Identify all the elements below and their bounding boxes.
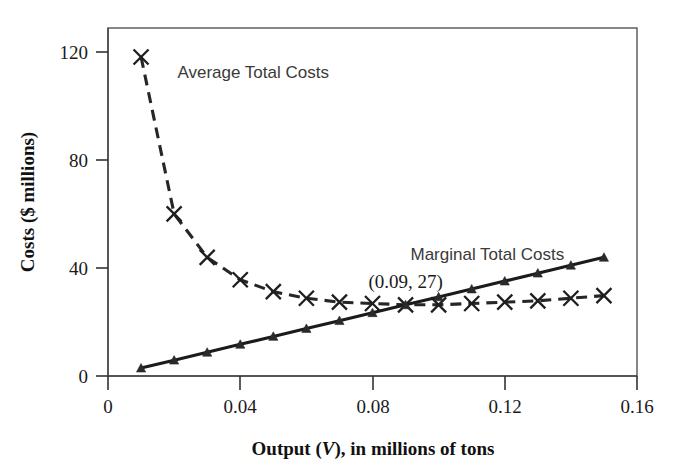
x-axis-title: Output (V), in millions of tons — [252, 438, 495, 460]
x-axis-title-pre: Output ( — [252, 438, 322, 460]
x-tick-label-004: 0.04 — [223, 396, 257, 417]
y-axis-title: Costs ($ millions) — [17, 132, 39, 272]
x-tick-label-012: 0.12 — [488, 396, 521, 417]
y-tick-label-120: 120 — [60, 42, 89, 63]
x-tick-label-0: 0 — [103, 396, 113, 417]
x-tick-label-008: 0.08 — [356, 396, 389, 417]
series-label-average-total-costs: Average Total Costs — [177, 63, 329, 82]
x-axis-title-post: ), in millions of tons — [334, 438, 494, 460]
point-annotation: (0.09, 27) — [368, 271, 442, 293]
chart-page: 0 40 80 120 0 0.04 0.08 0.12 0.16 Costs … — [0, 0, 681, 473]
chart-background — [0, 0, 681, 473]
y-tick-label-80: 80 — [69, 150, 88, 171]
x-tick-label-016: 0.16 — [620, 396, 653, 417]
y-tick-label-0: 0 — [79, 366, 89, 387]
y-tick-label-40: 40 — [69, 258, 88, 279]
series-label-marginal-total-costs: Marginal Total Costs — [411, 245, 565, 264]
costs-vs-output-chart: 0 40 80 120 0 0.04 0.08 0.12 0.16 Costs … — [0, 0, 681, 473]
